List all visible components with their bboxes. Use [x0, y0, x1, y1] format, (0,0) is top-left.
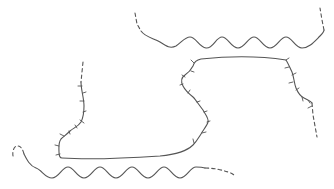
- hatched-loop-curve: [59, 57, 317, 159]
- diagram-canvas: [0, 0, 334, 189]
- bottom-wave-line: [13, 146, 235, 178]
- left-curve-ticks: [55, 86, 86, 155]
- top-wave-line: [135, 8, 324, 48]
- inner-curve-ticks: [180, 60, 210, 143]
